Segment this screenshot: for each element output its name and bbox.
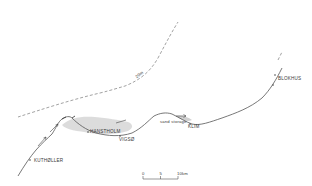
depth-contour-20m bbox=[18, 22, 178, 117]
marker-hanstholm bbox=[87, 131, 89, 133]
label-klim: KLIM bbox=[188, 125, 200, 130]
depth-contour-20m-right bbox=[278, 52, 282, 60]
label-blokhus: BLOKHUS bbox=[278, 77, 301, 82]
label-hanstholm: HANSTHOLM bbox=[90, 130, 121, 135]
coastal-map: HANSTHOLM VIGSØ KLIM BLOKHUS KUTHØLLER s… bbox=[0, 0, 312, 186]
label-vigso: VIGSØ bbox=[119, 138, 135, 143]
label-sand-storage: sand storage bbox=[160, 120, 187, 124]
marker-blokhus-2 bbox=[272, 84, 274, 86]
marker-kuthoeller bbox=[29, 159, 31, 161]
scale-tick-10km: 10km bbox=[177, 172, 188, 176]
scale-tick-5: 5 bbox=[160, 172, 163, 176]
scale-tick-0: 0 bbox=[142, 172, 145, 176]
label-kuthoeller: KUTHØLLER bbox=[34, 159, 63, 164]
marker-blokhus bbox=[274, 74, 276, 76]
scale-bar bbox=[143, 176, 178, 179]
transport-arrow-1 bbox=[38, 137, 46, 146]
